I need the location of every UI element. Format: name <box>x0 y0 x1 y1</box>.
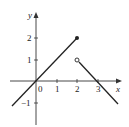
x-tick-label-2: 2 <box>75 84 80 94</box>
y-tick-label-2: 2 <box>27 33 32 43</box>
x-axis-arrow-icon <box>116 79 122 84</box>
line-piece-2 <box>79 62 118 104</box>
y-tick-label-1: 1 <box>27 55 32 65</box>
line-piece-1 <box>12 38 77 106</box>
y-axis-arrow-icon <box>34 12 39 18</box>
y-tick-label-neg1: −1 <box>21 98 31 108</box>
origin-label: 0 <box>38 84 43 94</box>
x-axis-label: x <box>115 84 120 94</box>
closed-endpoint-dot <box>75 36 79 40</box>
y-axis-label: y <box>27 10 32 20</box>
piecewise-graph: y x 0 1 2 3 2 1 −1 <box>0 0 129 127</box>
open-endpoint-circle <box>75 58 79 62</box>
x-tick-label-1: 1 <box>55 84 60 94</box>
